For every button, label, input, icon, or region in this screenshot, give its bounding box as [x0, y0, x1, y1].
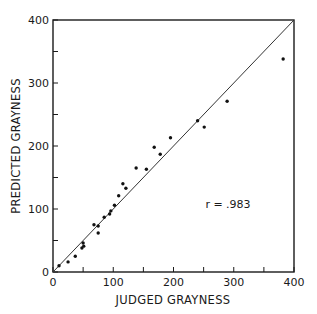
data-point	[153, 146, 156, 149]
data-point	[117, 194, 120, 197]
y-tick-label: 300	[28, 77, 49, 90]
reference-line	[53, 20, 294, 272]
x-tick-label: 300	[223, 276, 244, 289]
data-point	[124, 187, 127, 190]
y-tick-labels: 0100200300400	[28, 14, 49, 279]
data-point	[121, 182, 124, 185]
data-point	[66, 260, 69, 263]
data-point	[82, 244, 85, 247]
data-point	[113, 204, 116, 207]
data-point	[96, 224, 99, 227]
data-points	[57, 57, 285, 267]
data-point	[109, 209, 112, 212]
data-point	[196, 119, 199, 122]
y-tick-label: 400	[28, 14, 49, 27]
data-point	[108, 212, 111, 215]
data-point	[159, 152, 162, 155]
y-tick-label: 0	[42, 266, 49, 279]
data-point	[81, 241, 84, 244]
data-point	[281, 57, 284, 60]
x-tick-label: 100	[103, 276, 124, 289]
x-axis-title: JUDGED GRAYNESS	[115, 293, 231, 307]
x-tick-label: 400	[284, 276, 305, 289]
x-tick-label: 0	[50, 276, 57, 289]
identity-reference-line	[53, 20, 294, 272]
correlation-annotation: r = .983	[205, 198, 250, 211]
data-point	[103, 215, 106, 218]
data-point	[57, 264, 60, 267]
y-tick-label: 200	[28, 140, 49, 153]
y-axis-title: PREDICTED GRAYNESS	[9, 78, 23, 214]
scatter-chart: 0100200300400 0100200300400 JUDGED GRAYN…	[0, 0, 317, 314]
data-point	[169, 136, 172, 139]
data-point	[96, 231, 99, 234]
data-point	[225, 100, 228, 103]
data-point	[145, 168, 148, 171]
data-point	[74, 255, 77, 258]
data-point	[92, 223, 95, 226]
x-tick-label: 200	[163, 276, 184, 289]
data-point	[203, 125, 206, 128]
data-point	[134, 166, 137, 169]
y-tick-label: 100	[28, 203, 49, 216]
x-tick-labels: 0100200300400	[50, 276, 305, 289]
